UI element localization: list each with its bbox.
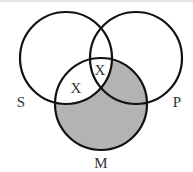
mark-x-sm: X <box>71 80 82 96</box>
mark-x-sp: X <box>95 62 106 78</box>
label-p: P <box>173 94 181 110</box>
label-m: M <box>94 155 107 171</box>
label-s: S <box>17 94 25 110</box>
venn-diagram: S P M X X <box>0 0 193 172</box>
